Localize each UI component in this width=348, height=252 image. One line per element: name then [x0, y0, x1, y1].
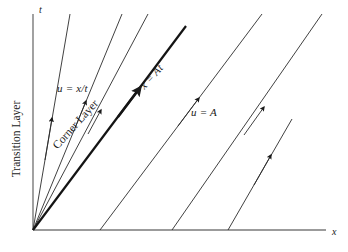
corner-layer-characteristic	[33, 26, 186, 230]
x-axis-label: x	[332, 226, 336, 237]
constant-state-group	[100, 14, 322, 230]
corner-layer-arrow	[118, 88, 140, 117]
characteristics-figure: Transition Layer Corner Layer x = At u =…	[0, 0, 348, 252]
t-axis-label: t	[39, 4, 42, 15]
u-equals-a-label: u = A	[191, 106, 217, 118]
fan-rays-group	[33, 14, 148, 230]
constant-state-characteristic-3-arrow	[254, 155, 271, 185]
figure-canvas	[0, 0, 348, 252]
u-equals-x-over-t-label: u = x/t	[57, 82, 88, 94]
fan-characteristic-3	[33, 14, 148, 230]
corner-layer-group	[33, 26, 186, 230]
transition-layer-label: Transition Layer	[10, 74, 22, 204]
fan-characteristic-1-arrow	[45, 118, 52, 160]
